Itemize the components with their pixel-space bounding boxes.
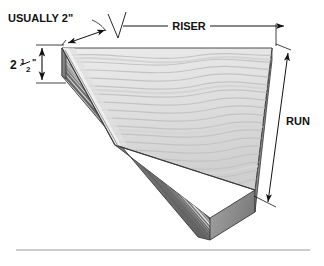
riser-label-text: RISER — [172, 20, 206, 32]
dimension-thickness: 2 1 2 " — [10, 45, 66, 83]
zigzag-break-line — [108, 12, 126, 38]
stair-tread-diagram: 2 1 2 " USUALLY 2" RISER RISER — [0, 0, 324, 266]
tread-right-end-face — [210, 190, 255, 240]
nosing-ext-line — [62, 40, 66, 45]
dimension-nosing: USUALLY 2" — [8, 12, 106, 45]
nosing-leader-line — [92, 20, 106, 31]
thickness-label-unit: " — [32, 57, 36, 67]
thickness-label-denominator: 2 — [26, 65, 31, 74]
diagram-canvas: 2 1 2 " USUALLY 2" RISER RISER — [0, 0, 324, 266]
run-ext-line-top — [276, 44, 291, 50]
nosing-dimension-arrow — [68, 30, 105, 43]
nosing-label: USUALLY 2" — [8, 12, 73, 24]
tread-solid — [55, 47, 310, 246]
dimension-riser: RISER RISER — [123, 18, 284, 46]
run-ext-line-bottom — [254, 196, 276, 207]
thickness-label-whole: 2 — [10, 58, 17, 72]
run-label: RUN — [286, 115, 310, 127]
